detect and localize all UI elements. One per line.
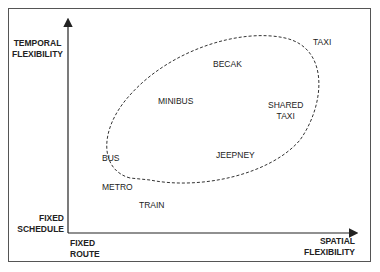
y-axis-top-label: TEMPORAL FLEXIBILITY <box>12 38 63 60</box>
label-line: TAXI <box>268 111 303 122</box>
label-line: SHARED <box>268 100 303 111</box>
label-line: FIXED <box>16 213 64 224</box>
label-line: SPATIAL <box>300 236 355 247</box>
label-line: FLEXIBILITY <box>300 247 355 258</box>
mode-minibus: MINIBUS <box>158 96 193 107</box>
label-line: SCHEDULE <box>16 224 64 235</box>
mode-shared-taxi: SHARED TAXI <box>268 100 303 122</box>
label-line: ROUTE <box>70 249 100 260</box>
mode-jeepney: JEEPNEY <box>216 150 255 161</box>
mode-metro: METRO <box>102 182 133 193</box>
x-axis-left-label: FIXED ROUTE <box>70 238 100 260</box>
label-line: FIXED <box>70 238 100 249</box>
mode-becak: BECAK <box>213 59 242 70</box>
mode-train: TRAIN <box>139 200 165 211</box>
label-line: TEMPORAL <box>12 38 63 49</box>
mode-taxi: TAXI <box>313 37 331 48</box>
label-line: FLEXIBILITY <box>12 49 63 60</box>
y-axis-bottom-label: FIXED SCHEDULE <box>16 213 64 235</box>
x-axis-right-label: SPATIAL FLEXIBILITY <box>300 236 355 258</box>
mode-bus: BUS <box>102 153 119 164</box>
